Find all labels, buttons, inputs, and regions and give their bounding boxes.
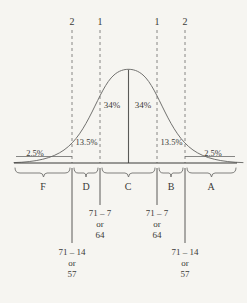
normal-curve-diagram: 2 1 1 2 34% 34% 13.5% 13.5% 2.5% 2.5% F … (0, 0, 247, 303)
brace-a (187, 168, 236, 177)
sd-label-minus-1: 1 (94, 17, 106, 27)
annotation-inner-right-value: 64 (135, 230, 179, 241)
brace-f (15, 168, 70, 177)
grade-label-b: B (164, 182, 178, 192)
sd-label-minus-2: 2 (66, 17, 78, 27)
percent-label-center-right: 34% (132, 101, 154, 110)
annotation-outer-right-or: or (159, 258, 211, 269)
annotation-outer-left-expression: 71 – 14 (46, 247, 98, 258)
annotation-outer-right-value: 57 (159, 269, 211, 280)
annotation-inner-left-value: 64 (78, 230, 122, 241)
annotation-inner-right-expression: 71 – 7 (135, 208, 179, 219)
annotation-inner-left-or: or (78, 219, 122, 230)
brace-c (102, 168, 155, 177)
brace-b (159, 168, 183, 177)
brace-d (74, 168, 98, 177)
grade-label-a: A (204, 182, 218, 192)
grade-braces (15, 168, 236, 177)
percent-label-right: 13.5% (157, 138, 186, 147)
annotation-inner-left: 71 – 7 or 64 (78, 208, 122, 241)
percent-label-center-left: 34% (101, 101, 123, 110)
percent-label-left: 13.5% (72, 138, 101, 147)
grade-label-d: D (79, 182, 93, 192)
annotation-outer-left-value: 57 (46, 269, 98, 280)
annotation-inner-left-expression: 71 – 7 (78, 208, 122, 219)
grade-label-c: C (121, 182, 135, 192)
percent-label-far-left: 2.5% (22, 149, 48, 158)
annotation-outer-left: 71 – 14 or 57 (46, 247, 98, 280)
annotation-outer-right-expression: 71 – 14 (159, 247, 211, 258)
sd-label-plus-2: 2 (179, 17, 191, 27)
annotation-inner-right-or: or (135, 219, 179, 230)
percent-label-far-right: 2.5% (200, 149, 226, 158)
sd-label-plus-1: 1 (151, 17, 163, 27)
annotation-outer-left-or: or (46, 258, 98, 269)
annotation-outer-right: 71 – 14 or 57 (159, 247, 211, 280)
grade-label-f: F (36, 182, 50, 192)
annotation-inner-right: 71 – 7 or 64 (135, 208, 179, 241)
